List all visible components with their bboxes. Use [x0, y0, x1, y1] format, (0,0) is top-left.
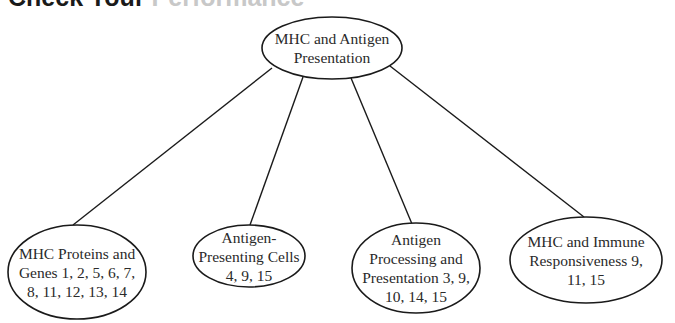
connector-line	[73, 68, 272, 225]
connector-line	[351, 78, 412, 224]
child-node-label: Antigen Processing and Presentation 3, 9…	[357, 230, 475, 306]
child-node-label: MHC Proteins and Genes 1, 2, 5, 6, 7, 8,…	[18, 244, 136, 301]
child-node-label: Antigen-Presenting Cells 4, 9, 15	[196, 228, 302, 285]
concept-map-edges	[73, 66, 584, 225]
root-node-label: MHC and Antigen Presentation	[267, 29, 397, 67]
child-node-label: MHC and Immune Responsiveness 9, 11, 15	[523, 232, 649, 289]
connector-line	[250, 77, 303, 225]
connector-line	[390, 66, 584, 217]
